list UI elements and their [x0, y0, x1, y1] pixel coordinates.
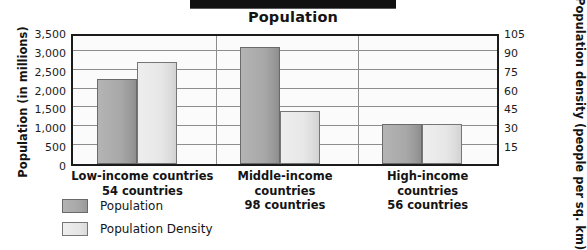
bar-fill — [137, 62, 177, 164]
y-axis-left-tick-label: 3,500 — [22, 29, 66, 40]
x-axis-category-label: Middle-income countries98 countries — [214, 169, 357, 213]
x-axis-category-label: Low-income countries54 countries — [71, 169, 214, 198]
y-axis-right-tick-label: 75 — [504, 67, 534, 78]
group-separator — [358, 36, 359, 164]
bar-fill — [280, 111, 320, 164]
y-axis-right-tick-label: 15 — [504, 142, 534, 153]
y-axis-right-tick-label: 45 — [504, 104, 534, 115]
legend-label: Population — [100, 199, 163, 213]
y-axis-left-tick-label: 1,500 — [22, 104, 66, 115]
bar-population — [240, 47, 280, 164]
y-axis-left-tick-label: 0 — [22, 161, 66, 172]
bar-fill — [422, 124, 462, 164]
group-separator — [216, 36, 217, 164]
chart-title: Population — [190, 9, 396, 25]
y-axis-right-tick-label: 60 — [504, 86, 534, 97]
legend-swatch — [62, 199, 88, 213]
bar-fill — [240, 47, 280, 164]
category-name: Low-income countries — [71, 169, 213, 183]
y-axis-left-tick-label: 2,000 — [22, 86, 66, 97]
bar-fill — [97, 79, 137, 164]
y-axis-right-tick-label: 90 — [504, 48, 534, 59]
bar-fill — [382, 124, 422, 164]
bar-population — [97, 79, 137, 164]
plot-area — [71, 34, 499, 166]
y-axis-right-tick-label: 30 — [504, 123, 534, 134]
chart-legend: PopulationPopulation Density — [62, 196, 212, 242]
legend-label: Population Density — [100, 222, 212, 236]
legend-swatch — [62, 222, 88, 236]
category-name: Middle-income countries — [237, 169, 332, 198]
x-axis-category-label: High-income countries56 countries — [356, 169, 499, 213]
black-cropped-bar — [190, 0, 396, 9]
y-axis-left-tick-label: 3,000 — [22, 48, 66, 59]
gridline — [73, 50, 497, 51]
y-axis-left-tick-label: 2,500 — [22, 67, 66, 78]
y-axis-left-tick-label: 500 — [22, 142, 66, 153]
bar-population — [382, 124, 422, 164]
y-axis-left-tick-label: 1,000 — [22, 123, 66, 134]
y-axis-right-title: Population density (people per sq. km) — [573, 0, 587, 237]
bar-population-density — [422, 124, 462, 164]
bar-population-density — [280, 111, 320, 164]
legend-item-population[interactable]: Population — [62, 196, 212, 216]
category-count: 98 countries — [214, 198, 357, 213]
plot-inner — [73, 36, 497, 164]
y-axis-right-ticks: 105907560453015 — [504, 34, 536, 166]
category-count: 56 countries — [356, 198, 499, 213]
bar-population-density — [137, 62, 177, 164]
legend-item-population_density[interactable]: Population Density — [62, 219, 212, 239]
y-axis-left-ticks: 3,5003,0002,5002,0001,5001,0005000 — [18, 34, 66, 166]
category-name: High-income countries — [387, 169, 468, 198]
y-axis-right-tick-label: 105 — [504, 29, 534, 40]
